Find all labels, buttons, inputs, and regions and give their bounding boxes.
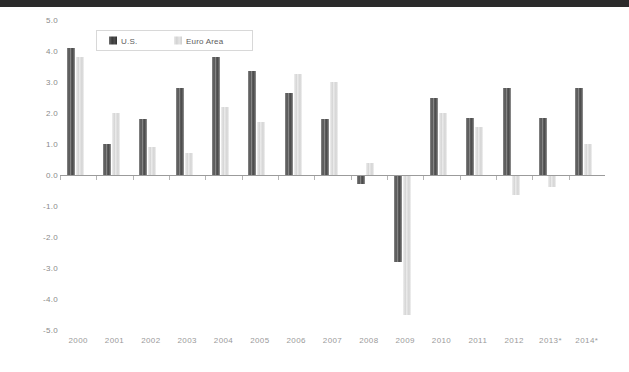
legend-entry-us: U.S.	[109, 36, 137, 45]
bar-euro-area	[475, 127, 483, 175]
legend-entry-euro-area: Euro Area	[174, 36, 223, 45]
bar-us	[394, 175, 402, 262]
x-axis-tick-label: 2002	[141, 336, 160, 345]
bar-euro-area	[439, 113, 447, 175]
x-axis-tick-label: 2000	[68, 336, 87, 345]
x-axis-tick-label: 2011	[468, 336, 487, 345]
y-axis-tick-label: -1.0	[18, 202, 58, 211]
bar-us	[321, 119, 329, 175]
bar-us	[575, 88, 583, 175]
y-axis-tick-label: -4.0	[18, 295, 58, 304]
bar-euro-area	[294, 74, 302, 175]
y-axis-tick-label: 0.0	[18, 171, 58, 180]
bar-euro-area	[76, 57, 84, 175]
bar-euro-area	[403, 175, 411, 315]
y-axis-tick-label: 4.0	[18, 47, 58, 56]
y-axis-tick-label: 1.0	[18, 140, 58, 149]
us-swatch-icon	[109, 37, 117, 45]
x-axis-tick-label: 2008	[359, 336, 378, 345]
x-axis-tick-label: 2012	[504, 336, 523, 345]
x-axis-tick-label: 2006	[286, 336, 305, 345]
euro-swatch-icon	[174, 37, 182, 45]
bar-us	[466, 118, 474, 175]
bar-us	[139, 119, 147, 175]
y-axis-tick-label: 3.0	[18, 78, 58, 87]
y-axis-labels: 5.04.03.02.01.00.0-1.0-2.0-3.0-4.0-5.0	[18, 20, 58, 330]
bar-us	[539, 118, 547, 175]
bar-us	[430, 98, 438, 176]
x-axis-tick-label: 2007	[323, 336, 342, 345]
x-axis-tick-label: 2014*	[575, 336, 598, 345]
x-axis-tick-label: 2013*	[539, 336, 562, 345]
bar-euro-area	[112, 113, 120, 175]
bar-euro-area	[330, 82, 338, 175]
y-axis-tick-label: -2.0	[18, 233, 58, 242]
x-axis-labels: 2000200120022003200420052006200720082009…	[60, 336, 605, 352]
x-axis-tick-label: 2009	[395, 336, 414, 345]
bar-us	[103, 144, 111, 175]
bar-us	[357, 175, 365, 184]
legend-label-euro-area: Euro Area	[186, 36, 223, 45]
x-axis-tick-label: 2010	[432, 336, 451, 345]
x-axis-tick-label: 2001	[105, 336, 124, 345]
y-axis-tick-label: -3.0	[18, 264, 58, 273]
x-axis-tick-label: 2004	[214, 336, 233, 345]
bar-euro-area	[148, 147, 156, 175]
bar-euro-area	[584, 144, 592, 175]
bar-euro-area	[185, 153, 193, 175]
plot-area	[60, 20, 605, 330]
bar-us	[503, 88, 511, 175]
zero-axis-line	[60, 175, 605, 176]
y-axis-tick-label: 2.0	[18, 109, 58, 118]
bar-euro-area	[512, 175, 520, 195]
bar-us	[176, 88, 184, 175]
bar-us	[67, 48, 75, 175]
bar-euro-area	[257, 122, 265, 175]
bar-euro-area	[548, 175, 556, 187]
legend-label-us: U.S.	[121, 36, 137, 45]
bar-euro-area	[221, 107, 229, 175]
bar-euro-area	[366, 163, 374, 175]
chart-figure: 5.04.03.02.01.00.0-1.0-2.0-3.0-4.0-5.0 2…	[0, 0, 629, 372]
x-axis-tick-label: 2003	[177, 336, 196, 345]
x-axis-tick-label: 2005	[250, 336, 269, 345]
chart-legend: U.S. Euro Area	[96, 30, 253, 51]
bar-us	[248, 71, 256, 175]
bar-us	[285, 93, 293, 175]
y-axis-tick-label: 5.0	[18, 16, 58, 25]
bar-us	[212, 57, 220, 175]
y-axis-tick-label: -5.0	[18, 326, 58, 335]
top-decorative-band	[0, 0, 629, 7]
